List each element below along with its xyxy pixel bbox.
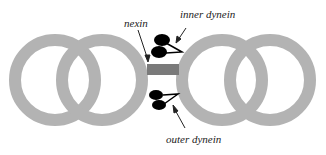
nexin-link — [147, 64, 179, 75]
left-b-tubule — [62, 40, 142, 120]
outer-dynein-label: outer dynein — [166, 133, 222, 145]
right-a-tubule — [182, 40, 262, 120]
right-doublet-microtubule — [182, 40, 310, 120]
left-doublet-microtubule — [15, 40, 142, 120]
axoneme-doublet-diagram: nexin inner dynein outer dynein — [0, 0, 326, 155]
left-a-tubule — [15, 40, 95, 120]
nexin-label: nexin — [124, 17, 148, 29]
inner-dynein-label: inner dynein — [180, 8, 236, 20]
